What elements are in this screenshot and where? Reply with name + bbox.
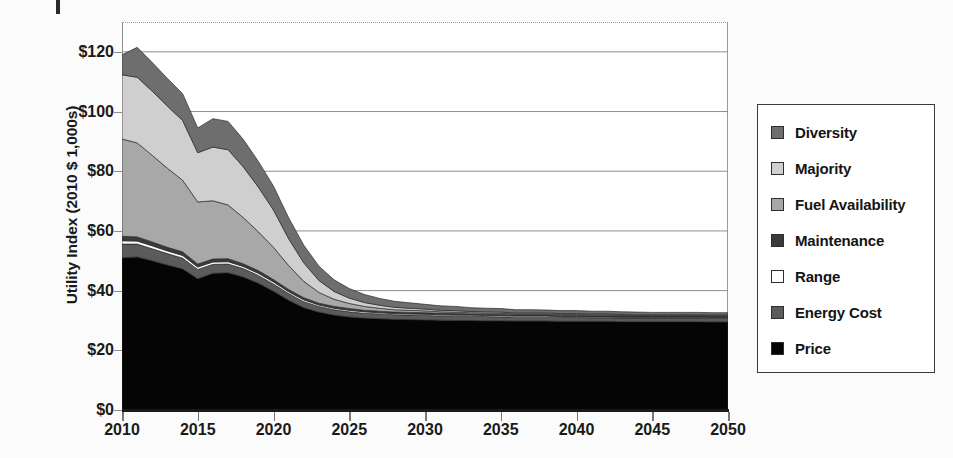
y-tick-label: $60	[44, 222, 114, 240]
y-tick-label: $120	[44, 43, 114, 61]
y-tick-label: $0	[44, 401, 114, 419]
y-tick-mark	[114, 291, 122, 292]
legend-item-label: Range	[795, 268, 840, 285]
chart-screenshot: Utility Index (2010 $ 1,000s) $0$20$40$6…	[0, 0, 953, 458]
legend-item[interactable]: Diversity	[758, 114, 934, 150]
legend-item[interactable]: Range	[758, 258, 934, 294]
y-axis-tick-labels: $0$20$40$60$80$100$120	[40, 0, 114, 458]
y-tick-label: $100	[44, 103, 114, 121]
x-tick-mark	[122, 412, 124, 421]
y-tick-mark	[114, 171, 122, 172]
x-tick-mark	[652, 412, 654, 421]
legend-item[interactable]: Price	[758, 330, 934, 366]
legend-item-label: Energy Cost	[795, 304, 882, 321]
area-series-price	[122, 257, 728, 410]
x-tick-label: 2045	[612, 421, 692, 439]
x-tick-mark	[728, 412, 730, 421]
x-tick-label: 2015	[158, 421, 238, 439]
legend-item-label: Diversity	[795, 124, 857, 141]
legend-swatch-icon	[771, 270, 784, 283]
legend-swatch-icon	[771, 162, 784, 175]
y-tick-mark	[114, 52, 122, 53]
legend-item[interactable]: Energy Cost	[758, 294, 934, 330]
legend-item[interactable]: Fuel Availability	[758, 186, 934, 222]
legend-swatch-icon	[771, 198, 784, 211]
legend-item-label: Fuel Availability	[795, 196, 906, 213]
legend-item-label: Price	[795, 340, 831, 357]
x-tick-label: 2010	[82, 421, 162, 439]
x-tick-mark	[349, 412, 351, 421]
stacked-area-svg	[122, 22, 728, 410]
x-tick-label: 2040	[537, 421, 617, 439]
legend-swatch-icon	[771, 306, 784, 319]
y-tick-label: $80	[44, 162, 114, 180]
legend-item-label: Majority	[795, 160, 851, 177]
y-tick-mark	[114, 112, 122, 113]
legend-swatch-icon	[771, 342, 784, 355]
y-tick-mark	[114, 410, 122, 411]
legend: DiversityMajorityFuel AvailabilityMainte…	[757, 104, 935, 373]
legend-item[interactable]: Majority	[758, 150, 934, 186]
plot-area	[122, 22, 728, 410]
y-tick-mark	[114, 231, 122, 232]
y-tick-label: $20	[44, 341, 114, 359]
x-tick-mark	[501, 412, 503, 421]
x-tick-mark	[425, 412, 427, 421]
x-tick-mark	[198, 412, 200, 421]
x-tick-label: 2035	[461, 421, 541, 439]
y-tick-mark	[114, 350, 122, 351]
legend-swatch-icon	[771, 234, 784, 247]
x-tick-mark	[577, 412, 579, 421]
legend-item-label: Maintenance	[795, 232, 884, 249]
legend-item[interactable]: Maintenance	[758, 222, 934, 258]
x-tick-mark	[274, 412, 276, 421]
x-tick-label: 2025	[309, 421, 389, 439]
x-tick-label: 2050	[688, 421, 768, 439]
y-tick-label: $40	[44, 282, 114, 300]
legend-swatch-icon	[771, 126, 784, 139]
x-tick-label: 2030	[385, 421, 465, 439]
x-tick-label: 2020	[234, 421, 314, 439]
